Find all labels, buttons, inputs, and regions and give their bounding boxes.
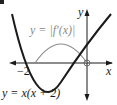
abs-derivative-curve — [35, 44, 87, 63]
y-axis-up-arrow-icon — [85, 9, 90, 16]
x-axis-left-arrow-icon — [9, 61, 16, 66]
curve1-label: y = x(x + 2) — [2, 86, 60, 101]
corner-mark — [0, 0, 4, 4]
tick-label-neg2: −2 — [17, 64, 30, 79]
y-axis-down-arrow-icon — [85, 94, 90, 101]
y-axis-label: y — [78, 5, 83, 20]
x-axis-label: x — [106, 64, 111, 79]
curve2-label: y = |f′(x)| — [30, 23, 75, 38]
